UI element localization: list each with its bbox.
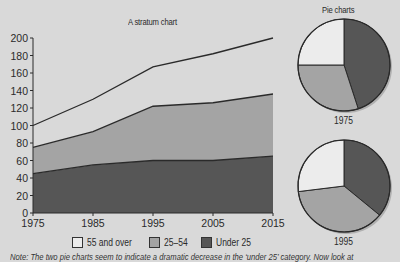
svg-text:80: 80 [16,137,28,149]
svg-text:2015: 2015 [261,217,285,229]
svg-text:1995: 1995 [141,217,165,229]
legend-swatch-under-25 [201,237,212,248]
legend-label: 25–54 [164,237,188,248]
svg-text:100: 100 [10,120,28,132]
svg-text:20: 20 [16,190,28,202]
svg-text:60: 60 [16,155,28,167]
legend-label: Under 25 [216,237,251,248]
svg-text:140: 140 [10,85,28,97]
legend-swatch-25-54 [149,237,160,248]
svg-text:2005: 2005 [201,217,225,229]
svg-text:1975: 1975 [21,217,45,229]
svg-text:1985: 1985 [81,217,105,229]
svg-text:200: 200 [10,32,28,44]
svg-text:180: 180 [10,50,28,62]
legend-item-55-and-over: 55 and over [72,237,140,248]
svg-text:120: 120 [10,102,28,114]
pie-1995-label: 1995 [334,236,353,247]
legend-label: 55 and over [87,237,132,248]
svg-text:160: 160 [10,67,28,79]
svg-text:40: 40 [16,172,28,184]
note-text: Note: The two pie charts seem to indicat… [10,252,353,262]
legend-item-25-54: 25–54 [149,237,192,248]
legend-swatch-55-and-over [72,237,83,248]
pie-chart-1995 [298,140,392,234]
legend: 55 and over 25–54 Under 25 [72,235,266,249]
pie-chart-1975 [298,19,392,113]
legend-item-under-25: Under 25 [201,237,257,248]
pie-1975-label: 1975 [334,115,353,126]
